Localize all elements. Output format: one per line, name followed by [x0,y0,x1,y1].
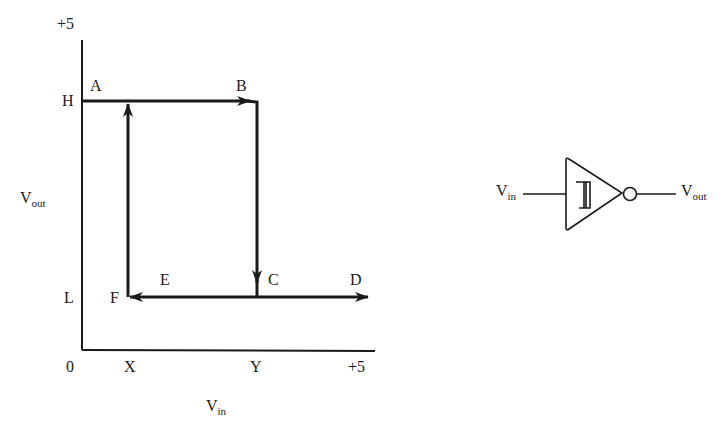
point-e-label: E [160,272,170,288]
out-subscript: out [32,197,46,209]
v-symbol: V [20,189,32,206]
x-axis-title: Vin [206,398,226,414]
origin-label: 0 [66,359,74,375]
gate-input-label: Vin [496,183,516,199]
x-tick-y: Y [250,359,262,375]
v-symbol: V [681,182,693,199]
inverter-bubble [624,188,637,201]
axes [82,40,375,351]
gate-output-label: Vout [681,183,707,199]
v-symbol: V [206,397,218,414]
v-symbol: V [496,182,508,199]
point-c-label: C [268,272,279,288]
x-tick-max: +5 [348,359,365,375]
hysteresis-loop [82,101,368,297]
y-axis-high-label: H [62,93,74,109]
point-a-label: A [90,78,102,94]
x-tick-x: X [124,359,136,375]
point-b-label: B [236,78,247,94]
in-subscript: in [218,405,227,417]
y-axis-title: Vout [20,190,46,206]
path-b-to-c [247,101,257,283]
y-axis-max-label: +5 [57,16,74,32]
point-f-label: F [110,290,119,306]
gate-triangle [566,158,622,230]
y-axis-low-label: L [64,290,74,306]
point-d-label: D [350,272,362,288]
schmitt-inverter-gate [523,158,676,230]
out-subscript: out [693,190,707,202]
in-subscript: in [508,190,517,202]
